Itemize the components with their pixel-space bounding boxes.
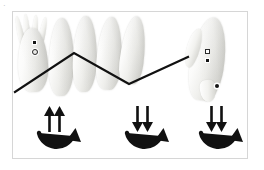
down-arrow-pair-icon	[206, 106, 227, 132]
down-arrow-pair-icon	[132, 106, 153, 132]
motion-symbol-1	[29, 106, 89, 160]
specimen-body	[48, 18, 74, 96]
specimen-shading	[72, 16, 99, 93]
specimen-shading	[117, 15, 149, 85]
motion-symbol-row	[13, 106, 249, 160]
marker-filled-dot-right	[215, 84, 219, 88]
motion-symbol-3	[191, 106, 251, 160]
marker-filled-square-left	[32, 40, 37, 45]
marker-open-square-right	[205, 49, 210, 54]
specimen-body	[117, 15, 149, 85]
marker-open-circle-left	[32, 49, 38, 55]
corner-mark: ·	[3, 2, 8, 9]
specimen-photo-layer	[13, 12, 249, 104]
up-arrow-pair-icon	[44, 106, 65, 132]
panel-frame	[12, 11, 248, 159]
motion-symbol-2	[117, 106, 177, 160]
specimen-shading	[48, 18, 74, 96]
specimen-body	[72, 16, 99, 93]
marker-filled-square-right	[205, 58, 210, 63]
figure-root: ·	[0, 0, 264, 170]
